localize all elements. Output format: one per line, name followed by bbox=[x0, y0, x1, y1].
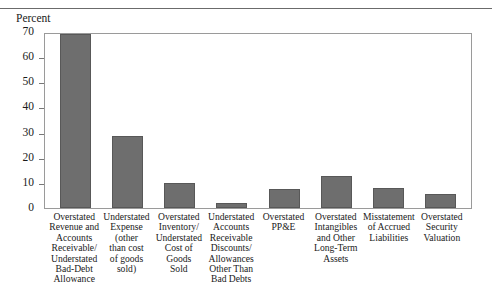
x-axis-category-label: Overstated PP&E bbox=[257, 212, 309, 302]
bar-slot bbox=[101, 34, 153, 208]
y-axis-tick-mark bbox=[39, 134, 44, 135]
chart-plot-area bbox=[44, 33, 472, 209]
figure-title-text: Financial Statement Fraud Schemes bbox=[8, 0, 204, 4]
x-axis-category-label: Understated Accounts Receivable Discount… bbox=[205, 212, 257, 302]
bar[interactable] bbox=[425, 194, 456, 208]
y-axis-tick-label: 30 bbox=[23, 126, 35, 138]
bar[interactable] bbox=[60, 34, 91, 208]
bar-slot bbox=[49, 34, 101, 208]
y-axis-tick-mark bbox=[39, 58, 44, 59]
x-axis-category-label: Understated Expense (other than cost of … bbox=[100, 212, 152, 302]
y-axis-tick-label: 70 bbox=[23, 25, 35, 37]
bar[interactable] bbox=[216, 203, 247, 208]
y-axis-tick-mark bbox=[39, 83, 44, 84]
bar[interactable] bbox=[164, 183, 195, 208]
y-axis-tick-label: 0 bbox=[28, 201, 34, 213]
y-axis-tick-mark bbox=[39, 184, 44, 185]
x-axis-category-label: Overstated Inventory/ Understated Cost o… bbox=[153, 212, 205, 302]
x-axis-category-label: Overstated Intangibles and Other Long-Te… bbox=[310, 212, 362, 302]
x-axis-category-label: Overstated Security Valuation bbox=[416, 212, 468, 302]
bar[interactable] bbox=[112, 136, 143, 208]
y-axis-tick-mark bbox=[39, 108, 44, 109]
title-horizontal-rule bbox=[0, 8, 492, 9]
bar[interactable] bbox=[269, 189, 300, 208]
y-axis-caption: Percent bbox=[16, 12, 50, 25]
x-axis-category-labels: Overstated Revenue and Accounts Receivab… bbox=[44, 212, 472, 302]
bar-slot bbox=[310, 34, 362, 208]
bar-slot bbox=[154, 34, 206, 208]
y-axis-tick-label: 60 bbox=[23, 50, 35, 62]
bar-slot bbox=[258, 34, 310, 208]
bars-container bbox=[45, 34, 471, 208]
x-axis-category-label: Overstated Revenue and Accounts Receivab… bbox=[48, 212, 100, 302]
y-axis-tick-label: 10 bbox=[23, 176, 35, 188]
bar-slot bbox=[415, 34, 467, 208]
bar-slot bbox=[206, 34, 258, 208]
y-axis-tick-mark bbox=[39, 159, 44, 160]
y-axis-tick-label: 20 bbox=[23, 151, 35, 163]
y-axis-tick-label: 50 bbox=[23, 75, 35, 87]
bar[interactable] bbox=[321, 176, 352, 208]
y-axis-tick-label: 40 bbox=[23, 100, 35, 112]
bar-slot bbox=[363, 34, 415, 208]
bar[interactable] bbox=[373, 188, 404, 208]
x-axis-category-label: Misstatement of Accrued Liabilities bbox=[362, 212, 416, 302]
